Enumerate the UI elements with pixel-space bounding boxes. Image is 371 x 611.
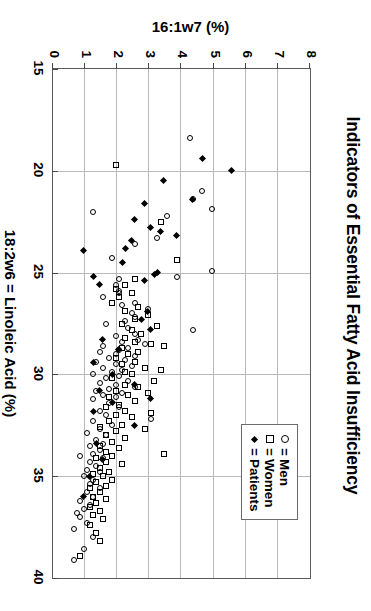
data-point-women <box>142 365 148 371</box>
data-point-women <box>109 300 115 306</box>
page-title: Indicators of Essential Fatty Acid Insuf… <box>342 0 363 611</box>
figure-rotation-wrapper: Indicators of Essential Fatty Acid Insuf… <box>0 0 371 611</box>
data-point-women <box>132 339 138 345</box>
data-point-men <box>209 268 215 274</box>
y-axis-label: 16:1w7 (%) <box>121 18 261 35</box>
data-point-women <box>122 282 128 288</box>
data-point-men <box>106 386 112 392</box>
data-point-men <box>187 135 193 141</box>
legend-item-patients[interactable]: =Patients <box>247 431 262 511</box>
data-point-men <box>71 526 77 532</box>
data-point-men <box>97 349 103 355</box>
data-point-women <box>135 349 141 355</box>
data-point-women <box>116 294 122 300</box>
data-point-women <box>122 382 128 388</box>
data-point-women <box>135 304 141 310</box>
legend-equals-sign: = <box>277 447 292 459</box>
y-axis-tick <box>277 63 278 69</box>
data-point-men <box>116 373 122 379</box>
legend-item-label: Patients <box>247 459 262 512</box>
data-point-men <box>90 371 96 377</box>
data-point-women <box>113 428 119 434</box>
y-axis-tick-label: 2 <box>111 34 126 58</box>
data-point-men <box>174 274 180 280</box>
y-axis-tick <box>245 63 246 69</box>
data-point-men <box>87 459 93 465</box>
data-point-women <box>93 500 99 506</box>
data-point-women <box>77 553 83 559</box>
data-point-women <box>142 426 148 432</box>
legend-item-label: Women <box>262 459 277 508</box>
data-point-patients <box>119 259 126 266</box>
data-point-patients <box>96 281 103 288</box>
x-axis-tick <box>52 476 58 477</box>
data-point-patients <box>151 271 158 278</box>
data-point-women <box>154 323 160 329</box>
gridline-horizontal <box>148 69 149 578</box>
data-point-women <box>113 355 119 361</box>
gridline-horizontal <box>213 69 214 578</box>
data-point-women <box>87 485 93 491</box>
x-axis-tick <box>52 273 58 274</box>
gridline-horizontal <box>84 69 85 578</box>
data-point-women <box>97 489 103 495</box>
data-point-women <box>109 439 115 445</box>
data-point-women <box>106 418 112 424</box>
scatter-plot-figure: Indicators of Essential Fatty Acid Insuf… <box>0 0 371 611</box>
data-point-women <box>174 257 180 263</box>
data-point-women <box>109 453 115 459</box>
y-axis-tick-label: 1 <box>79 34 94 58</box>
x-axis-tick-label: 30 <box>31 366 46 381</box>
data-point-women <box>151 378 157 384</box>
x-axis-tick <box>52 69 58 70</box>
data-point-women <box>138 331 144 337</box>
data-point-men <box>116 276 122 282</box>
data-point-men <box>126 345 132 351</box>
data-point-men <box>77 514 83 520</box>
data-point-women <box>132 359 138 365</box>
data-point-men <box>148 416 154 422</box>
data-point-patients <box>80 247 87 254</box>
data-point-patients <box>131 422 138 429</box>
data-point-women <box>129 414 135 420</box>
open-circle-icon <box>281 431 289 447</box>
data-point-women <box>132 276 138 282</box>
data-point-women <box>122 335 128 341</box>
data-point-men <box>209 206 215 212</box>
data-point-women <box>122 369 128 375</box>
data-point-women <box>93 479 99 485</box>
data-point-men <box>90 418 96 424</box>
data-point-men <box>84 430 90 436</box>
data-point-men <box>113 361 119 367</box>
data-point-men <box>113 333 119 339</box>
data-point-women <box>148 410 154 416</box>
data-point-women <box>119 361 125 367</box>
y-axis-tick-label: 5 <box>207 34 222 58</box>
data-point-men <box>100 365 106 371</box>
data-point-women <box>122 408 128 414</box>
legend-equals-sign: = <box>247 447 262 459</box>
data-point-men <box>154 235 160 241</box>
data-point-women <box>87 504 93 510</box>
data-point-women <box>161 343 167 349</box>
legend-item-women[interactable]: =Women <box>262 431 277 511</box>
y-axis-tick <box>148 63 149 69</box>
y-axis-tick <box>213 63 214 69</box>
data-point-men <box>113 382 119 388</box>
data-point-men <box>103 375 109 381</box>
data-point-patients <box>90 408 97 415</box>
legend: =Men=Women=Patients <box>241 424 298 520</box>
data-point-women <box>119 321 125 327</box>
y-axis-tick <box>309 63 310 69</box>
data-point-women <box>113 412 119 418</box>
filled-diamond-icon <box>252 431 257 447</box>
legend-item-men[interactable]: =Men <box>277 431 292 511</box>
data-point-men <box>106 355 112 361</box>
data-point-men <box>103 321 109 327</box>
data-point-men <box>164 213 170 219</box>
data-point-patients <box>131 216 138 223</box>
data-point-women <box>100 473 106 479</box>
y-axis-tick <box>52 63 53 69</box>
data-point-men <box>119 302 125 308</box>
data-point-patients <box>228 167 235 174</box>
